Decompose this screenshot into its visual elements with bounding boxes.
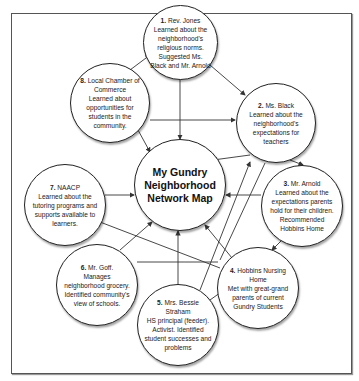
node-number: 6. bbox=[81, 264, 87, 271]
node-hobbins-nursing-home: 4. Hobbins Nursing Home Met with great-g… bbox=[217, 247, 299, 329]
node-number: 4. bbox=[230, 267, 236, 274]
node-description: Learned about the neighborhood's expecta… bbox=[243, 110, 309, 146]
node-ms-black: 2. Ms. Black Learned about the neighborh… bbox=[236, 83, 316, 163]
center-node: My Gundry Neighborhood Network Map bbox=[134, 139, 226, 231]
center-title-line-3: Network Map bbox=[147, 192, 212, 205]
node-description: Learned about the expectations parents h… bbox=[268, 188, 336, 233]
node-number: 5. bbox=[157, 299, 163, 306]
node-name: Mrs. Bessie Straham bbox=[164, 299, 198, 315]
node-rev-jones: 1. Rev. Jones Learned about the neighbor… bbox=[143, 5, 218, 80]
node-bessie-straham: 5. Mrs. Bessie Straham HS principal (fee… bbox=[137, 284, 219, 366]
node-number: 8. bbox=[80, 77, 86, 84]
node-description: Learned about the tutoring programs and … bbox=[31, 192, 99, 228]
node-mr-goff: 6. Mr. Goff. Manages neighborhood grocer… bbox=[56, 244, 138, 326]
center-title-line-2: Neighborhood bbox=[144, 179, 216, 192]
center-title-line-1: My Gundry bbox=[153, 166, 208, 179]
node-description: Learned about opportunities for students… bbox=[77, 94, 143, 130]
node-naacp: 7. NAACP Learned about the tutoring prog… bbox=[24, 164, 106, 246]
node-name: Ms. Black bbox=[265, 102, 294, 109]
node-number: 1. bbox=[161, 17, 167, 24]
node-description: Met with great-grand parents of current … bbox=[224, 284, 292, 311]
node-chamber-of-commerce: 8. Local Chamber of Commerce Learned abo… bbox=[70, 63, 150, 143]
node-name: Rev. Jones bbox=[168, 17, 201, 24]
node-description: Manages neighborhood grocery. Identified… bbox=[63, 272, 131, 308]
node-number: 2. bbox=[258, 102, 264, 109]
node-description: Learned about the neighborhood's religio… bbox=[150, 25, 211, 70]
node-name: Mr. Goff. bbox=[88, 264, 113, 271]
node-name: NAACP bbox=[57, 184, 80, 191]
node-name: Mr. Arnold bbox=[291, 180, 321, 187]
node-name: Hobbins Nursing Home bbox=[237, 267, 286, 283]
node-name: Local Chamber of Commerce bbox=[88, 77, 140, 93]
node-number: 7. bbox=[50, 184, 56, 191]
node-description: HS principal (feeder). Activist. Identif… bbox=[144, 316, 212, 352]
node-mr-arnold: 3. Mr. Arnold Learned about the expectat… bbox=[261, 165, 343, 247]
node-number: 3. bbox=[283, 180, 289, 187]
